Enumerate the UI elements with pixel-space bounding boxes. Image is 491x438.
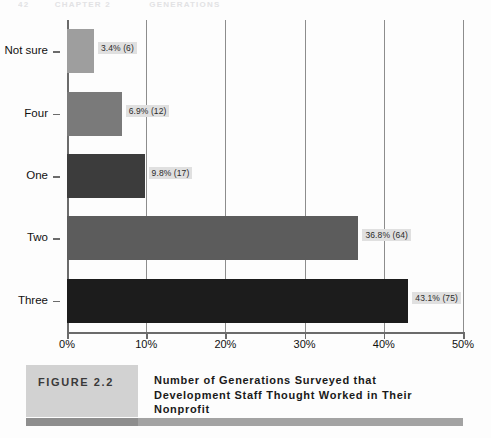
y-tick-label-not-sure: Not sure <box>5 44 48 56</box>
y-tick-label-two: Two <box>27 231 48 243</box>
plot-area: 3.4% (6)6.9% (12)9.8% (17)36.8% (64)43.1… <box>67 20 463 332</box>
bar-one <box>67 154 145 198</box>
y-tick-mark <box>53 51 60 53</box>
x-tick-mark <box>146 332 148 339</box>
bar-not-sure <box>67 29 94 73</box>
y-tick-mark <box>53 301 60 303</box>
bar-value-label: 6.9% (12) <box>126 105 170 117</box>
y-tick-label-three: Three <box>18 294 48 306</box>
bar-row: 43.1% (75) <box>67 279 463 323</box>
bar-chart: Not sureFourOneTwoThree 3.4% (6)6.9% (12… <box>0 12 491 357</box>
x-tick-mark <box>67 332 69 339</box>
bar-three <box>67 279 408 323</box>
bar-four <box>67 92 122 136</box>
x-tick-mark <box>225 332 227 339</box>
bar-value-label: 3.4% (6) <box>98 42 137 54</box>
figure-caption: FIGURE 2.2 Number of Generations Surveye… <box>26 365 466 427</box>
y-tick-mark <box>53 238 60 240</box>
x-tick-label-40%: 40% <box>373 338 395 350</box>
x-tick-label-0%: 0% <box>59 338 75 350</box>
bar-row: 6.9% (12) <box>67 92 463 136</box>
page-number: 42 <box>18 0 29 9</box>
y-tick-mark <box>53 114 60 116</box>
gridline-50% <box>463 20 464 332</box>
bar-value-label: 9.8% (17) <box>149 167 193 179</box>
y-tick-mark <box>53 176 60 178</box>
y-tick-label-one: One <box>26 169 48 181</box>
page-header-part: CHAPTER 2 <box>55 0 111 9</box>
page-header-section: GENERATIONS <box>149 0 220 9</box>
page-header-separator <box>128 0 131 9</box>
bar-row: 36.8% (64) <box>67 216 463 260</box>
x-tick-label-50%: 50% <box>452 338 474 350</box>
bar-two <box>67 216 358 260</box>
x-tick-label-20%: 20% <box>214 338 236 350</box>
y-axis-category-labels: Not sureFourOneTwoThree <box>0 20 60 332</box>
bar-value-label: 43.1% (75) <box>412 292 461 304</box>
x-tick-mark <box>463 332 465 339</box>
figure-tag-label: FIGURE 2.2 <box>38 376 114 388</box>
figure-title-text: Number of Generations Surveyed that Deve… <box>154 373 454 417</box>
x-tick-label-10%: 10% <box>135 338 157 350</box>
x-axis-line <box>67 332 463 334</box>
y-tick-label-four: Four <box>24 107 48 119</box>
bar-row: 3.4% (6) <box>67 29 463 73</box>
caption-rule-accent <box>26 418 138 426</box>
x-tick-mark <box>305 332 307 339</box>
x-tick-label-30%: 30% <box>294 338 316 350</box>
page-running-head: 42 CHAPTER 2 GENERATIONS <box>18 0 478 11</box>
x-tick-mark <box>384 332 386 339</box>
bar-value-label: 36.8% (64) <box>362 229 411 241</box>
bar-row: 9.8% (17) <box>67 154 463 198</box>
figure-tag-block <box>26 365 138 417</box>
